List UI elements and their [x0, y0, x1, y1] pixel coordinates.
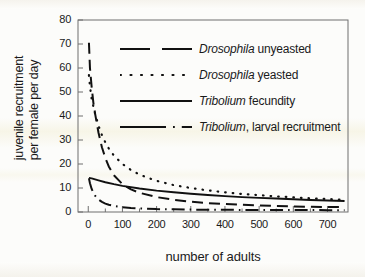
legend-label: Drosophila yeasted — [199, 68, 298, 82]
legend-label-genus: Drosophila — [199, 68, 254, 82]
legend-item: Drosophila unyeasted — [120, 36, 365, 62]
x-tick-label: 700 — [312, 218, 342, 230]
figure-chart: juvenile recruitment per female per day … — [0, 0, 365, 277]
x-tick-label: 600 — [278, 218, 308, 230]
legend-item: Tribolium, larval recruitment — [120, 114, 365, 140]
legend-label-genus: Tribolium — [199, 94, 246, 108]
y-tick-label: 70 — [49, 37, 71, 49]
legend-label-genus: Drosophila — [199, 42, 254, 56]
legend-label: Tribolium fecundity — [199, 94, 295, 108]
x-axis-title: number of adults — [78, 249, 348, 264]
y-tick-label: 30 — [49, 133, 71, 145]
x-tick-label: 400 — [210, 218, 240, 230]
legend-label: Tribolium, larval recruitment — [199, 120, 340, 134]
y-tick-label: 10 — [49, 181, 71, 193]
y-tick-label: 40 — [49, 109, 71, 121]
series-line — [89, 178, 345, 210]
x-tick-label: 200 — [142, 218, 172, 230]
legend-label: Drosophila unyeasted — [199, 42, 311, 56]
x-tick-label: 500 — [244, 218, 274, 230]
series-line — [89, 178, 345, 201]
x-tick-label: 300 — [176, 218, 206, 230]
legend-key-dashed — [120, 43, 192, 55]
y-tick-label: 0 — [49, 205, 71, 217]
y-tick-label: 80 — [49, 13, 71, 25]
legend-key-dashdot — [120, 121, 192, 133]
legend-item: Tribolium fecundity — [120, 88, 365, 114]
legend-label-genus: Tribolium — [199, 120, 246, 134]
chart-legend: Drosophila unyeastedDrosophila yeastedTr… — [120, 36, 365, 140]
x-tick-label: 100 — [107, 218, 137, 230]
legend-key-solid — [120, 95, 192, 107]
legend-item: Drosophila yeasted — [120, 62, 365, 88]
y-tick-label: 60 — [49, 61, 71, 73]
y-tick-label: 20 — [49, 157, 71, 169]
y-tick-label: 50 — [49, 85, 71, 97]
legend-key-dotted — [120, 69, 192, 81]
x-tick-label: 0 — [73, 218, 103, 230]
